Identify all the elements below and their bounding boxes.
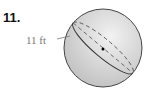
sphere-figure	[0, 0, 145, 93]
center-point	[102, 48, 105, 51]
